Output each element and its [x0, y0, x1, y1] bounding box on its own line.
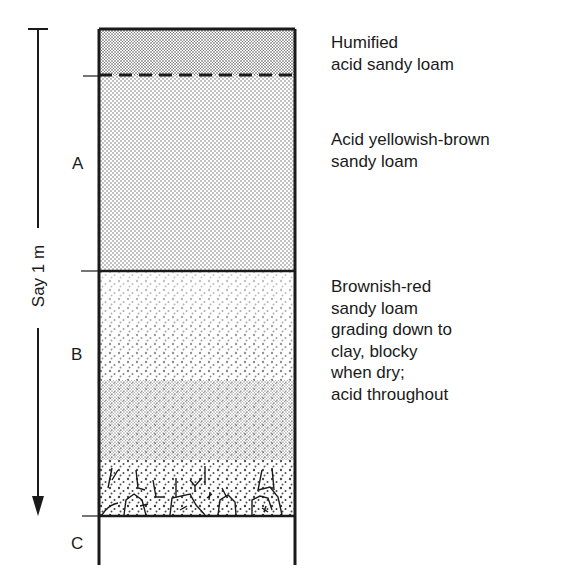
brownish-red-layer-description: Brownish-red sandy loam grading down to …: [331, 276, 452, 405]
a-horizon-fill: [99, 75, 295, 271]
humified-layer-description: Humified acid sandy loam: [331, 32, 454, 75]
horizon-label-c: C: [71, 534, 83, 554]
scale-arrow-icon: [32, 496, 44, 516]
scale-label: Say 1 m: [29, 241, 49, 311]
soil-profile-diagram: [0, 0, 567, 582]
horizon-label-a: A: [72, 154, 83, 174]
horizon-label-b: B: [71, 345, 82, 365]
yellowish-brown-layer-description: Acid yellowish-brown sandy loam: [331, 129, 490, 172]
humified-layer-fill: [99, 29, 295, 75]
